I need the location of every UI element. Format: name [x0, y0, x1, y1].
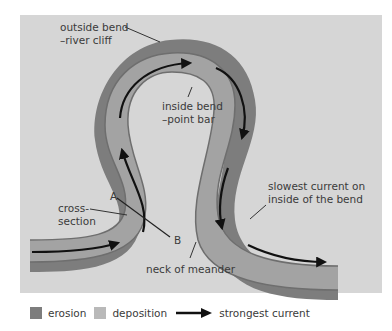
- point-a-label: A: [110, 190, 117, 203]
- channel-inner-edge: [30, 53, 338, 266]
- river-channel: [30, 53, 338, 290]
- outside-bend-label: outside bend –river cliff: [60, 21, 129, 47]
- legend-item-erosion: erosion: [30, 307, 86, 319]
- neck-label: neck of meander: [146, 263, 235, 276]
- legend-item-current: strongest current: [175, 307, 310, 319]
- legend: erosion deposition strongest current: [30, 305, 318, 321]
- erosion-zone: [30, 39, 338, 300]
- cross-section-label: cross- section: [58, 202, 96, 228]
- legend-label: erosion: [48, 307, 86, 319]
- legend-label: deposition: [112, 307, 167, 319]
- outside-bend-leader: [125, 27, 160, 42]
- arrow-right-icon: [175, 307, 213, 319]
- legend-item-deposition: deposition: [94, 307, 167, 319]
- legend-label: strongest current: [219, 307, 310, 319]
- inside-bend-label: inside bend –point bar: [162, 100, 223, 126]
- neck-leader: [190, 242, 196, 258]
- point-b-label: B: [174, 234, 181, 247]
- deposition-swatch-icon: [94, 307, 106, 319]
- inside-bend-leader: [188, 87, 192, 97]
- meander-diagram: [0, 0, 392, 331]
- erosion-swatch-icon: [30, 307, 42, 319]
- slowest-current-label: slowest current on inside of the bend: [268, 180, 365, 206]
- slowest-current-leader: [250, 205, 266, 219]
